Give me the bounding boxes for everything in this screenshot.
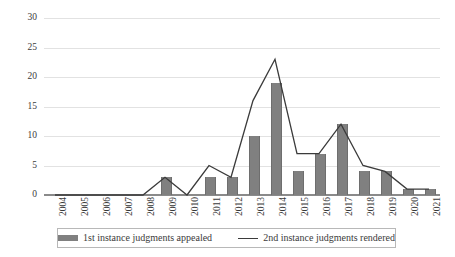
legend-item-label: 1st instance judgments appealed bbox=[83, 233, 212, 243]
plot-area: 051015202530 bbox=[44, 18, 440, 195]
y-axis-tick-label: 25 bbox=[28, 43, 38, 53]
legend-item-line-series: 2nd instance judgments rendered bbox=[238, 233, 395, 243]
y-axis-tick-label: 30 bbox=[28, 13, 38, 23]
legend-bar-swatch-icon bbox=[58, 235, 78, 241]
x-axis-tick-labels: 2004200520062007200820092010201120122013… bbox=[44, 197, 440, 227]
x-axis-tick-label: 2004 bbox=[59, 197, 69, 216]
y-axis-tick-label: 0 bbox=[32, 190, 37, 200]
y-axis-tick-label: 10 bbox=[28, 131, 38, 141]
x-axis-tick-label: 2010 bbox=[191, 197, 201, 216]
legend-line-swatch-icon bbox=[238, 238, 258, 239]
x-axis-tick-label: 2005 bbox=[81, 197, 91, 216]
x-axis-tick-label: 2006 bbox=[103, 197, 113, 216]
line-series-group bbox=[44, 18, 440, 195]
x-axis-tick-label: 2013 bbox=[257, 197, 267, 216]
x-axis-tick-label: 2020 bbox=[411, 197, 421, 216]
y-axis-tick-label: 5 bbox=[32, 161, 37, 171]
chart-legend: 1st instance judgments appealed 2nd inst… bbox=[57, 228, 396, 248]
chart-container: 051015202530 200420052006200720082009201… bbox=[0, 0, 455, 257]
x-axis-tick-label: 2007 bbox=[125, 197, 135, 216]
x-axis-tick-label: 2008 bbox=[147, 197, 157, 216]
y-axis-tick-label: 20 bbox=[28, 72, 38, 82]
legend-item-bar-series: 1st instance judgments appealed bbox=[58, 233, 212, 243]
x-axis-tick-label: 2014 bbox=[279, 197, 289, 216]
x-axis-tick-label: 2016 bbox=[323, 197, 333, 216]
legend-item-label: 2nd instance judgments rendered bbox=[263, 233, 395, 243]
x-axis-tick-label: 2009 bbox=[169, 197, 179, 216]
line-series-path bbox=[55, 59, 429, 195]
x-axis-tick-label: 2012 bbox=[235, 197, 245, 216]
x-axis-tick-label: 2019 bbox=[389, 197, 399, 216]
x-axis-tick-label: 2017 bbox=[345, 197, 355, 216]
x-axis-tick-label: 2011 bbox=[213, 197, 223, 216]
y-axis-tick-label: 15 bbox=[28, 102, 38, 112]
x-axis-tick-label: 2015 bbox=[301, 197, 311, 216]
x-axis-tick-label: 2021 bbox=[433, 197, 443, 216]
x-axis-tick-label: 2018 bbox=[367, 197, 377, 216]
